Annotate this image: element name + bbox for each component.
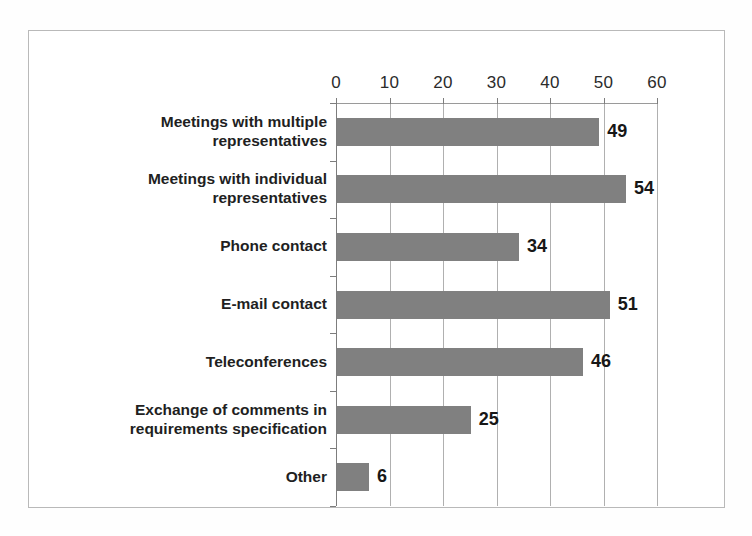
category-label-line: Teleconferences (69, 352, 327, 371)
category-label-line: requirements specification (69, 419, 327, 438)
category-label-line: Phone contact (69, 236, 327, 255)
x-axis-tick-labels: 0102030405060 (336, 73, 657, 99)
bar-value-label: 34 (527, 236, 547, 257)
chart-figure: 0102030405060 4954345146256 Meetings wit… (0, 0, 752, 536)
bar (337, 348, 583, 376)
bar-value-label: 51 (618, 294, 638, 315)
category-label: Meetings with multiplerepresentatives (69, 112, 327, 150)
x-tick-label-20: 20 (433, 73, 452, 93)
x-tick-label-50: 50 (594, 73, 613, 93)
x-tickmark-60 (657, 98, 658, 104)
x-tickmark-0 (336, 98, 337, 104)
category-label-line: Meetings with individual (69, 169, 327, 188)
category-label: Exchange of comments inrequirements spec… (69, 400, 327, 438)
category-label: Teleconferences (69, 352, 327, 371)
y-tickmark (330, 276, 336, 277)
category-label-line: E-mail contact (69, 294, 327, 313)
y-tickmark (330, 161, 336, 162)
plot-area: 4954345146256 (336, 103, 657, 506)
bar-value-label: 54 (634, 178, 654, 199)
category-label-line: representatives (69, 131, 327, 150)
x-tick-label-40: 40 (540, 73, 559, 93)
bar (337, 233, 519, 261)
x-tickmark-30 (497, 98, 498, 104)
x-tickmark-50 (604, 98, 605, 104)
y-axis-category-labels: Meetings with multiplerepresentativesMee… (69, 103, 327, 506)
category-label: E-mail contact (69, 294, 327, 313)
x-tick-label-30: 30 (487, 73, 506, 93)
bar-value-label: 6 (377, 466, 387, 487)
y-tickmark (330, 506, 336, 507)
y-tickmark (330, 391, 336, 392)
category-label-line: Exchange of comments in (69, 400, 327, 419)
category-label: Phone contact (69, 236, 327, 255)
y-tickmark (330, 103, 336, 104)
x-tickmark-20 (443, 98, 444, 104)
x-tick-label-10: 10 (380, 73, 399, 93)
bar (337, 118, 599, 146)
bar (337, 463, 369, 491)
x-tick-label-0: 0 (331, 73, 341, 93)
category-label-line: Other (69, 467, 327, 486)
x-tickmark-40 (550, 98, 551, 104)
y-tickmark (330, 333, 336, 334)
bar-value-label: 46 (591, 351, 611, 372)
x-tickmark-10 (390, 98, 391, 104)
y-tickmark (330, 448, 336, 449)
gridline-60 (657, 103, 658, 506)
bar-value-label: 49 (607, 121, 627, 142)
bar (337, 291, 610, 319)
y-tickmark (330, 218, 336, 219)
category-label-line: Meetings with multiple (69, 112, 327, 131)
bar (337, 406, 471, 434)
category-label: Other (69, 467, 327, 486)
x-tick-label-60: 60 (647, 73, 666, 93)
category-label: Meetings with individualrepresentatives (69, 169, 327, 207)
bar-value-label: 25 (479, 409, 499, 430)
bar (337, 175, 626, 203)
chart-outer-frame: 0102030405060 4954345146256 Meetings wit… (28, 30, 725, 508)
category-label-line: representatives (69, 188, 327, 207)
